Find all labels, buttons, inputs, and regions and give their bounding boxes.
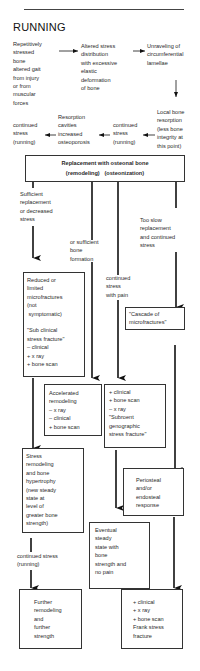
label-continued-stress-2: continued stress (running): [113, 121, 137, 146]
node-cascade: "Cascade of microfractures": [125, 307, 185, 330]
node-periosteal-response: Periosteal and/or endosteal response: [123, 468, 184, 516]
stressremod-text: Stress remodeling and bone hypertrophy (…: [26, 452, 58, 528]
node-frank-stress-fracture: + clinical + x ray + bone scan Frank str…: [121, 589, 183, 649]
label-sufficient-replacement: Sufficient replacement or decreased stre…: [20, 190, 53, 224]
node-accelerated-remodeling: Accelerated remodeling – x ray – clinica…: [44, 384, 102, 436]
replacement-title: Replacement with osteonal bone: [26, 159, 184, 167]
reduced-text: Reduced or limited microfractures (not s…: [27, 276, 64, 368]
label-continued-stress-pain: continued stress with pain: [106, 274, 130, 299]
periosteal-text: Periosteal and/or endosteal response: [136, 476, 161, 510]
frank-text: + clinical + x ray + bone scan Frank str…: [133, 598, 164, 640]
label-sufficient-bone-formation: or sufficient bone formation: [70, 238, 99, 263]
node-further-remodeling: Further remodeling and further strength: [19, 589, 82, 649]
node-subroentgenographic: + clinical + bone scan – x ray "Subroent…: [104, 384, 166, 448]
label-continued-stress-1: continued stress (running): [13, 121, 37, 146]
accelerated-text: Accelerated remodeling – x ray – clinica…: [49, 389, 80, 431]
node-eventual-steady-state: Eventual steady state with bone strength…: [89, 522, 150, 589]
node-repetitive-stress: Repetitively stressed bone altered gait …: [13, 40, 42, 107]
node-stress-remodeling: Stress remodeling and bone hypertrophy (…: [22, 448, 84, 533]
cascade-text: "Cascade of microfractures": [129, 310, 166, 327]
replacement-subtitle: (remodeling) (osteonization): [26, 169, 184, 177]
node-altered-stress: Altered stress distribution with excessi…: [81, 42, 117, 92]
node-reduced-microfractures: Reduced or limited microfractures (not s…: [23, 272, 85, 377]
eventual-text: Eventual steady state with bone strength…: [95, 526, 126, 576]
node-resorption-cavities: Resorption cavities increased osteoporos…: [58, 113, 90, 147]
label-continued-stress-3: continued stress (running): [17, 552, 58, 569]
node-unraveling: Unraveling of circumferential lamellae: [147, 42, 183, 67]
further-text: Further remodeling and further strength: [34, 598, 62, 640]
subroent-text: + clinical + bone scan – x ray "Subroent…: [109, 388, 146, 438]
label-too-slow: Too slow replacement and continued stres…: [140, 216, 175, 250]
node-local-resorption: Local bone resorption (less bone integri…: [157, 108, 184, 150]
node-replacement-osteonal: Replacement with osteonal bone (remodeli…: [25, 155, 185, 182]
